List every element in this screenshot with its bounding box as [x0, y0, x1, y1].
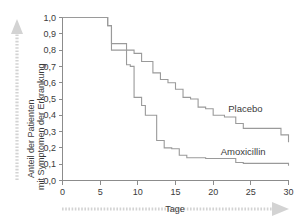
x-axis-ticks: 0 5 10 15 20 25 30: [60, 181, 294, 198]
y-tick-label-4: 0,4: [43, 110, 56, 120]
x-tick-label-2: 10: [133, 187, 143, 197]
series-label-amoxicillin: Amoxicillin: [221, 146, 266, 157]
y-tick-label-1: 0,1: [43, 159, 56, 169]
x-tick-label-5: 25: [246, 187, 256, 197]
kaplan-meier-chart: Anteil der Patienten mit Symptomen der E…: [0, 0, 301, 223]
x-axis-title: Tage: [165, 204, 185, 214]
series-label-placebo: Placebo: [228, 103, 262, 114]
series-line-placebo: [63, 18, 289, 143]
x-tick-label-0: 0: [60, 187, 65, 197]
x-tick-label-6: 30: [283, 187, 293, 197]
x-tick-label-3: 15: [170, 187, 180, 197]
vertical-up-arrow-icon: [11, 19, 23, 180]
y-tick-label-3: 0,3: [43, 127, 56, 137]
series-line-amoxicillin: [63, 18, 289, 166]
y-tick-label-0: 0,0: [43, 176, 56, 186]
y-tick-label-7: 0,7: [43, 62, 56, 72]
x-tick-label-1: 5: [98, 187, 103, 197]
y-tick-label-6: 0,6: [43, 78, 56, 88]
y-tick-label-5: 0,5: [43, 94, 56, 104]
y-axis-title-line-1: Anteil der Patienten: [26, 99, 36, 178]
y-tick-label-9: 0,9: [43, 29, 56, 39]
y-tick-label-10: 1,0: [43, 13, 56, 23]
y-tick-label-2: 0,2: [43, 143, 56, 153]
y-tick-label-8: 0,8: [43, 45, 56, 55]
y-axis-ticks: 0,0 0,1 0,2 0,3 0,4 0,5 0,6 0,7 0,8 0,9 …: [43, 13, 62, 186]
chart-page: Anteil der Patienten mit Symptomen der E…: [0, 0, 301, 223]
x-tick-label-4: 20: [208, 187, 218, 197]
